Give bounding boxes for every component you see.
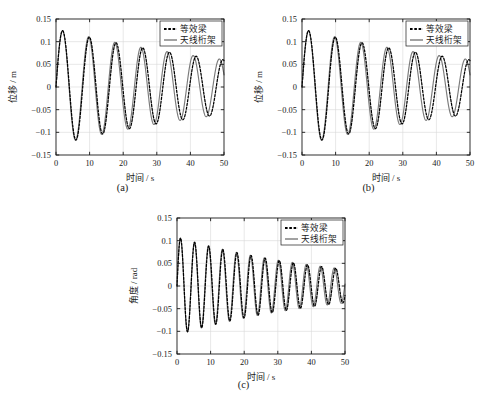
x-tick-label: 20 [240, 358, 248, 367]
y-tick-label: −0.1 [157, 327, 172, 336]
x-tick-label: 0 [54, 159, 58, 168]
x-tick-label: 0 [300, 159, 304, 168]
panel-c-caption: (c) [121, 379, 366, 390]
figure-damped-response: 010203040500.150.10.050−0.05−0.1−0.15时间 … [0, 0, 491, 397]
y-tick-label: −0.05 [153, 305, 172, 314]
y-tick-label: −0.1 [36, 128, 51, 137]
panel-b-caption: (b) [246, 182, 491, 193]
x-tick-label: 0 [175, 358, 179, 367]
y-tick-label: 0.1 [41, 38, 51, 47]
y-tick-label: 0.1 [162, 237, 172, 246]
x-tick-label: 40 [432, 159, 440, 168]
y-tick-label: 0.05 [36, 60, 51, 69]
x-tick-label: 20 [365, 159, 373, 168]
y-axis-title: 位移 / m [7, 71, 18, 103]
panel-b: 010203040500.150.10.050−0.05−0.1−0.15时间 … [246, 0, 491, 182]
panel-a-caption: (a) [0, 182, 245, 193]
x-tick-label: 10 [331, 159, 339, 168]
x-axis-title: 时间 / s [372, 172, 401, 182]
legend-label-2: 天线桁架 [426, 34, 462, 45]
y-tick-label: 0 [168, 282, 172, 291]
y-tick-label: −0.05 [278, 106, 297, 115]
y-tick-label: −0.05 [32, 106, 51, 115]
x-axis-title: 时间 / s [126, 172, 155, 182]
x-tick-label: 40 [186, 159, 194, 168]
panel-a-plot: 010203040500.150.10.050−0.05−0.1−0.15时间 … [0, 0, 245, 182]
legend-label-1: 等效梁 [426, 23, 453, 34]
x-tick-label: 30 [399, 159, 407, 168]
legend: 等效梁天线桁架 [406, 21, 468, 46]
y-axis-title: 角度 / rad [128, 267, 139, 304]
y-tick-label: 0.15 [282, 15, 297, 24]
x-tick-label: 50 [466, 159, 474, 168]
x-tick-label: 10 [206, 358, 214, 367]
y-tick-label: −0.15 [32, 151, 51, 160]
y-tick-label: 0 [293, 83, 297, 92]
x-tick-label: 30 [153, 159, 161, 168]
y-axis-title: 位移 / m [253, 71, 264, 103]
panel-b-plot: 010203040500.150.10.050−0.05−0.1−0.15时间 … [246, 0, 491, 182]
legend: 等效梁天线桁架 [281, 220, 343, 245]
panel-c-plot: 010203040500.150.10.050−0.05−0.1−0.15时间 … [121, 199, 366, 381]
y-tick-label: 0.15 [36, 15, 51, 24]
legend: 等效梁天线桁架 [160, 21, 222, 46]
y-tick-label: 0.1 [287, 38, 297, 47]
panel-a: 010203040500.150.10.050−0.05−0.1−0.15时间 … [0, 0, 245, 182]
y-tick-label: −0.1 [282, 128, 297, 137]
x-tick-label: 40 [307, 358, 315, 367]
x-tick-label: 30 [274, 358, 282, 367]
x-tick-label: 20 [119, 159, 127, 168]
y-tick-label: −0.15 [153, 350, 172, 359]
x-tick-label: 10 [85, 159, 93, 168]
legend-label-2: 天线桁架 [301, 233, 337, 244]
panel-c: 010203040500.150.10.050−0.05−0.1−0.15时间 … [121, 199, 366, 381]
y-tick-label: 0.15 [157, 214, 172, 223]
legend-label-1: 等效梁 [180, 23, 207, 34]
legend-label-2: 天线桁架 [180, 34, 216, 45]
y-tick-label: 0 [47, 83, 51, 92]
y-tick-label: −0.15 [278, 151, 297, 160]
x-tick-label: 50 [220, 159, 228, 168]
y-tick-label: 0.05 [282, 60, 297, 69]
x-tick-label: 50 [341, 358, 349, 367]
legend-label-1: 等效梁 [301, 222, 328, 233]
y-tick-label: 0.05 [157, 259, 172, 268]
